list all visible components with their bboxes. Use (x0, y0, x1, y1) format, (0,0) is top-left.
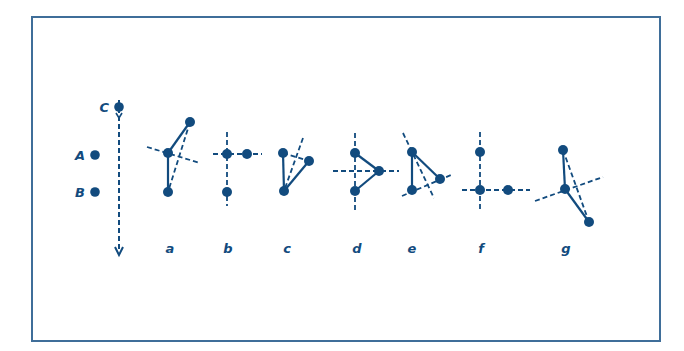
molecular-geometry-diagram: ABC abcdefg (0, 0, 684, 351)
dashed-line (147, 147, 200, 163)
atom-dot (558, 145, 568, 155)
configuration-label-d: d (352, 241, 362, 256)
atom-dot (222, 149, 232, 159)
small-arrowhead-icon (116, 113, 122, 118)
configuration-label-b: b (223, 241, 232, 256)
atom-dot (350, 186, 360, 196)
solid-bond (563, 150, 565, 189)
atom-dot (407, 147, 417, 157)
configuration-label-e: e (408, 241, 417, 256)
configuration-label-f: f (478, 241, 486, 256)
atom-dot (584, 217, 594, 227)
solid-bond (283, 153, 284, 191)
reference-points: ABC (74, 100, 124, 256)
solid-bond (284, 161, 309, 191)
reference-point-c (114, 102, 124, 112)
reference-label-c: C (99, 100, 109, 115)
atom-dot (435, 174, 445, 184)
atom-dot (374, 166, 384, 176)
solid-bond (412, 152, 440, 179)
atom-dot (304, 156, 314, 166)
configuration-c: c (278, 138, 314, 256)
dashed-line (168, 122, 190, 192)
atom-dot (475, 147, 485, 157)
atom-dot (350, 148, 360, 158)
atom-dot (560, 184, 570, 194)
configurations: abcdefg (147, 117, 603, 256)
atom-dot (242, 149, 252, 159)
configuration-b: b (213, 132, 262, 256)
configuration-label-g: g (561, 241, 570, 256)
atom-dot (407, 185, 417, 195)
configuration-e: e (402, 133, 451, 256)
atom-dot (503, 185, 513, 195)
atom-dot (163, 148, 173, 158)
atom-dot (475, 185, 485, 195)
configuration-label-c: c (283, 241, 291, 256)
reference-point-b (90, 187, 100, 197)
reference-label-a: A (74, 148, 85, 163)
solid-bond (168, 122, 190, 153)
dashed-line (284, 138, 303, 191)
atom-dot (279, 186, 289, 196)
configuration-d: d (333, 133, 399, 256)
atom-dot (222, 187, 232, 197)
configuration-label-a: a (166, 241, 175, 256)
configuration-f: f (462, 132, 530, 256)
configuration-g: g (535, 145, 603, 256)
atom-dot (278, 148, 288, 158)
reference-label-b: B (75, 185, 85, 200)
configuration-a: a (147, 117, 200, 256)
atom-dot (163, 187, 173, 197)
reference-point-a (90, 150, 100, 160)
solid-bond (565, 189, 589, 222)
atom-dot (185, 117, 195, 127)
